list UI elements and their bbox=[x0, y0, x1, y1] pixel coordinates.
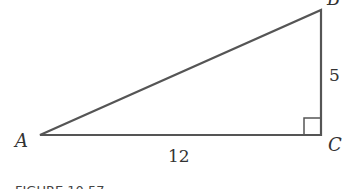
vertex-label-c: C bbox=[328, 134, 342, 155]
side-label-ac: 12 bbox=[168, 146, 190, 166]
side-label-bc: 5 bbox=[329, 65, 340, 85]
right-triangle-diagram: A B C 12 5 FIGURE 10.57 bbox=[0, 0, 355, 189]
vertex-label-b: B bbox=[326, 0, 340, 9]
right-angle-marker bbox=[304, 118, 321, 135]
triangle-abc bbox=[40, 10, 321, 135]
figure-caption: FIGURE 10.57 bbox=[15, 183, 105, 189]
vertex-label-a: A bbox=[13, 130, 28, 151]
